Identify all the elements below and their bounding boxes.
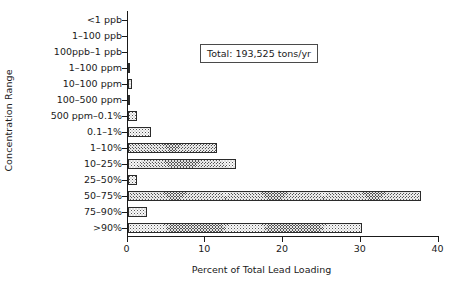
- y-tick-mark: [122, 132, 127, 133]
- x-tick-mark: [438, 237, 439, 242]
- y-tick-mark: [122, 164, 127, 165]
- y-tick-label: 10–25%: [84, 156, 122, 172]
- bar: [128, 223, 362, 233]
- y-tick-mark: [122, 228, 127, 229]
- y-tick-label: 10–100 ppm: [63, 76, 122, 92]
- y-tick-label: 500 ppm–0.1%: [51, 108, 122, 124]
- x-tick-label: 10: [184, 243, 224, 254]
- bar-row: <1 ppb: [0, 12, 453, 28]
- bar-row: 1–100 ppb: [0, 28, 453, 44]
- y-tick-mark: [122, 68, 127, 69]
- bar: [128, 207, 147, 217]
- bar-row: 10–100 ppm: [0, 76, 453, 92]
- bar-row: 500 ppm–0.1%: [0, 108, 453, 124]
- y-tick-label: >90%: [93, 220, 122, 236]
- y-tick-mark: [122, 148, 127, 149]
- y-tick-mark: [122, 180, 127, 181]
- bar: [128, 63, 130, 73]
- bar-row: 10–25%: [0, 156, 453, 172]
- lead-loading-bar-chart: Concentration Range <1 ppb 1–100 ppb 100…: [0, 0, 453, 285]
- bar-row: 50–75%: [0, 188, 453, 204]
- x-axis-title: Percent of Total Lead Loading: [0, 264, 453, 275]
- y-tick-mark: [122, 100, 127, 101]
- y-tick-label: 50–75%: [84, 188, 122, 204]
- bar: [128, 111, 137, 121]
- total-annotation: Total: 193,525 tons/yr: [200, 44, 318, 63]
- x-axis-title-text: Percent of Total Lead Loading: [192, 264, 331, 275]
- y-tick-label: 25–50%: [84, 172, 122, 188]
- y-tick-mark: [122, 212, 127, 213]
- y-tick-mark: [122, 116, 127, 117]
- bar: [128, 79, 132, 89]
- x-tick-label: 30: [340, 243, 380, 254]
- bar: [128, 191, 421, 201]
- y-tick-mark: [122, 20, 127, 21]
- bar-row: 0.1–1%: [0, 124, 453, 140]
- y-tick-label: <1 ppb: [87, 12, 122, 28]
- y-tick-mark: [122, 52, 127, 53]
- bar-row: 1–10%: [0, 140, 453, 156]
- bar: [128, 175, 137, 185]
- y-tick-mark: [122, 84, 127, 85]
- bar-row: >90%: [0, 220, 453, 236]
- bar: [128, 159, 236, 169]
- y-tick-label: 100ppb–1 ppb: [54, 44, 122, 60]
- y-tick-label: 1–10%: [90, 140, 122, 156]
- x-tick-mark: [282, 237, 283, 242]
- x-axis-ticks: 0 10 20 30 40: [0, 236, 453, 266]
- x-tick-mark: [360, 237, 361, 242]
- y-tick-label: 1–100 ppb: [72, 28, 122, 44]
- y-tick-label: 75–90%: [84, 204, 122, 220]
- x-tick-mark: [127, 237, 128, 242]
- bar-row: 25–50%: [0, 172, 453, 188]
- bar: [128, 95, 130, 105]
- bar-row: 100–500 ppm: [0, 92, 453, 108]
- bar: [128, 127, 151, 137]
- y-tick-label: 100–500 ppm: [57, 92, 122, 108]
- y-tick-mark: [122, 196, 127, 197]
- x-tick-mark: [204, 237, 205, 242]
- total-annotation-text: Total: 193,525 tons/yr: [207, 48, 311, 59]
- x-tick-label: 0: [107, 243, 147, 254]
- x-tick-label: 20: [262, 243, 302, 254]
- y-tick-mark: [122, 36, 127, 37]
- bar-row: 75–90%: [0, 204, 453, 220]
- x-tick-label: 40: [418, 243, 453, 254]
- y-tick-label: 0.1–1%: [87, 124, 122, 140]
- y-tick-label: 1–100 ppm: [69, 60, 122, 76]
- bar: [128, 143, 217, 153]
